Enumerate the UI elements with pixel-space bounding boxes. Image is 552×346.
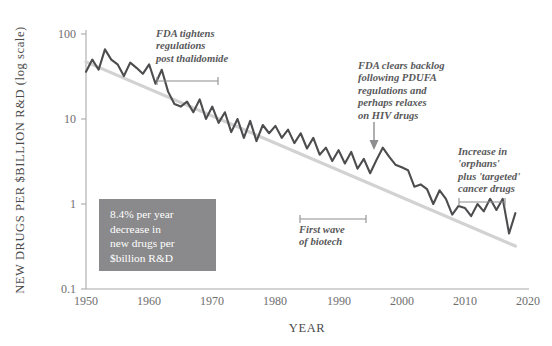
bracket-first-wave-biotech	[300, 215, 366, 223]
x-axis-title: YEAR	[289, 321, 325, 335]
x-tick-label-2000: 2000	[390, 294, 414, 308]
arrow-fda-clears-backlog	[370, 122, 379, 150]
x-tick-label-2020: 2020	[516, 294, 540, 308]
rate-callout-box: 8.4% per year decrease in new drugs per …	[99, 199, 216, 271]
bracket-orphans-targeted	[459, 198, 505, 206]
y-tick-label-10: 10	[64, 112, 76, 126]
x-axis-tick-labels: 1950 1960 1970 1980 1990 2000 2010 2020	[74, 294, 540, 308]
y-tick-label-100: 100	[58, 27, 76, 41]
y-axis-title: NEW DRUGS PER $BILLION R&D (log scale)	[13, 26, 27, 294]
annotation-fda-tightens: FDA tightens regulations post thalidomid…	[156, 28, 276, 65]
x-tick-label-2010: 2010	[453, 294, 477, 308]
x-tick-label-1980: 1980	[263, 294, 287, 308]
x-tick-label-1950: 1950	[74, 294, 98, 308]
annotation-fda-clears-backlog: FDA clears backlog following PDUFA regul…	[358, 60, 478, 122]
x-tick-label-1960: 1960	[137, 294, 161, 308]
x-tick-label-1990: 1990	[327, 294, 351, 308]
annotation-orphans-targeted: Increase in 'orphans' plus 'targeted' ca…	[458, 146, 550, 196]
x-tick-label-1970: 1970	[200, 294, 224, 308]
chart-figure: 100 10 1 0.1 1950 1960 1970 1980 1990 20…	[0, 0, 552, 346]
annotation-first-wave-biotech: First wave of biotech	[299, 224, 399, 249]
y-tick-label-1: 1	[70, 197, 76, 211]
y-axis-tick-labels: 100 10 1 0.1	[58, 27, 76, 296]
